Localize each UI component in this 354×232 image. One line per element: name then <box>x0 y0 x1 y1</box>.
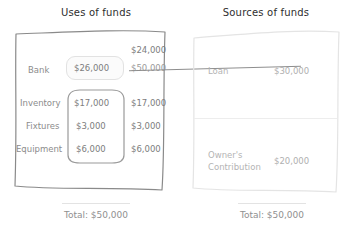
loan-value: $30,000 <box>274 66 309 76</box>
sources-of-funds-panel: Loan $30,000 Owner's Contribution $20,00… <box>190 26 348 198</box>
equipment-boxed-value: $6,000 <box>76 144 106 154</box>
fixtures-boxed-value: $3,000 <box>76 121 106 131</box>
uses-of-funds-panel: Bank $26,000 $24,000 $50,000 Inventory $… <box>12 26 180 198</box>
row-label-owners-contribution-line2: Contribution <box>208 162 261 172</box>
inventory-plain-value: $17,000 <box>131 98 166 108</box>
inventory-boxed-value: $17,000 <box>74 98 109 108</box>
uses-total-label: Total: $50,000 <box>36 210 156 220</box>
row-label-loan: Loan <box>208 66 228 76</box>
funds-diagram: Uses of funds Sources of funds Bank $26,… <box>0 0 354 232</box>
uses-total-rule <box>62 203 130 204</box>
row-label-owners-contribution-line1: Owner's <box>208 150 243 160</box>
owners-contribution-value: $20,000 <box>274 156 309 166</box>
sources-of-funds-title: Sources of funds <box>196 7 336 18</box>
row-label-fixtures: Fixtures <box>26 121 59 131</box>
sources-total-label: Total: $50,000 <box>212 210 332 220</box>
sources-total-rule <box>238 203 306 204</box>
row-label-equipment: Equipment <box>16 144 62 154</box>
equipment-plain-value: $6,000 <box>131 144 161 154</box>
uses-of-funds-title: Uses of funds <box>26 7 166 18</box>
fixtures-plain-value: $3,000 <box>131 121 161 131</box>
sources-row-divider <box>194 118 337 119</box>
row-label-inventory: Inventory <box>20 98 61 108</box>
